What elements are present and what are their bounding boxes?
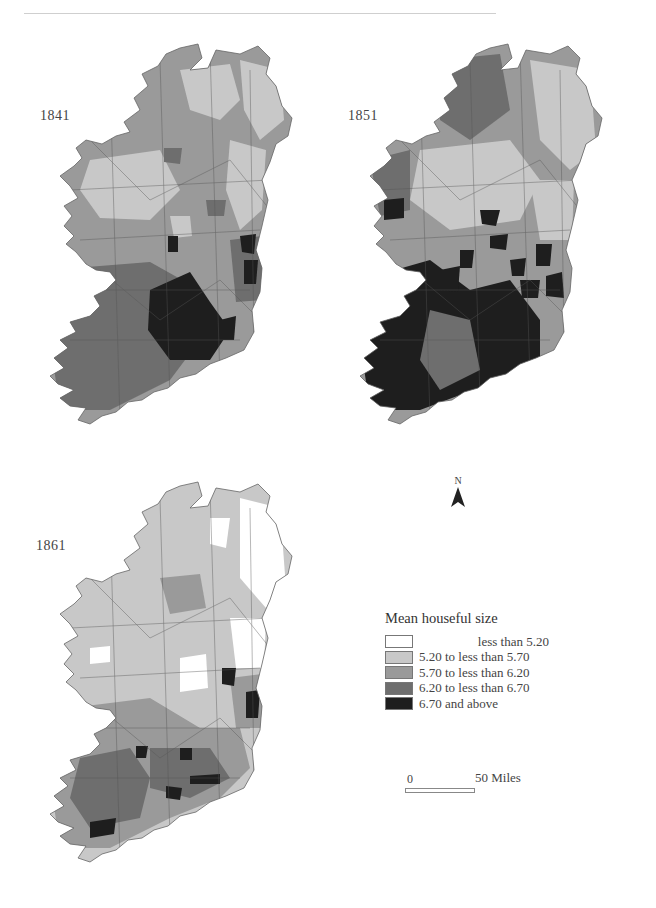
map-1851: 1851 [340,40,610,440]
north-arrow-icon [448,486,468,508]
legend-label: 6.20 to less than 6.70 [419,680,530,696]
legend-label: 6.70 and above [419,696,498,712]
year-label-1851: 1851 [348,108,378,124]
legend-label: 5.20 to less than 5.70 [419,649,530,665]
scale-start-label: 0 [407,772,413,787]
north-label: N [448,476,468,486]
top-rule [24,13,496,14]
legend-label: 5.70 to less than 6.20 [419,665,530,681]
scale-bar-graphic [405,788,475,793]
legend-item: 6.20 to less than 6.70 [385,681,565,697]
scale-bar: 0 50 Miles [405,770,545,793]
legend-title: Mean houseful size [385,610,565,627]
legend-swatch [385,682,413,695]
legend-swatch [385,697,413,710]
legend-swatch [385,666,413,679]
map-1861-choropleth [30,478,300,888]
legend: Mean houseful size less than 5.20 5.20 t… [385,610,565,712]
legend-item: 5.20 to less than 5.70 [385,650,565,666]
legend-label: less than 5.20 [419,634,565,650]
legend-item: 5.70 to less than 6.20 [385,665,565,681]
legend-swatch [385,651,413,664]
year-label-1841: 1841 [40,108,70,124]
map-1841-choropleth [30,40,300,440]
legend-swatch [385,635,413,648]
map-1861: 1861 [30,478,300,888]
north-arrow: N [448,476,468,512]
scale-end-label: 50 Miles [475,770,521,786]
year-label-1861: 1861 [36,538,66,554]
map-1841: 1841 [30,40,300,440]
legend-item: 6.70 and above [385,696,565,712]
legend-item: less than 5.20 [385,634,565,650]
map-1851-choropleth [340,40,610,440]
